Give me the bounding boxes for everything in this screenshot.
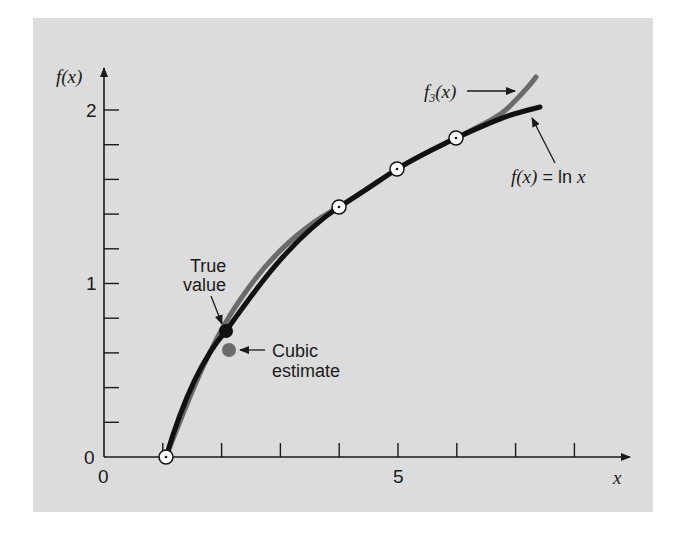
x-tick-label-5: 5 <box>393 466 404 487</box>
lnx-label: f(x) = ln x <box>511 166 586 188</box>
x-ticks <box>163 443 575 457</box>
lnx-arrow <box>532 118 555 163</box>
true-value-label-line1: True <box>190 256 226 276</box>
data-point-x6 <box>449 131 463 145</box>
y-axis-title: f(x) <box>56 66 82 88</box>
data-point-x4 <box>332 200 346 214</box>
y-tick-label-1: 1 <box>86 273 97 294</box>
x-axis-title: x <box>612 467 622 488</box>
y-tick-label-0: 0 <box>84 447 95 468</box>
chart-canvas: 2 1 0 0 5 f(x) x True value Cubic estima… <box>0 0 680 535</box>
true-value-point <box>219 324 233 338</box>
data-point-x1 <box>159 450 173 464</box>
cubic-estimate-point <box>222 343 236 357</box>
svg-text:f(x) = ln x: f(x) = ln x <box>511 166 586 188</box>
y-ticks <box>104 110 119 422</box>
x-tick-label-0: 0 <box>98 466 109 487</box>
data-point-x5 <box>390 162 404 176</box>
cubic-estimate-label-line1: Cubic <box>272 341 318 361</box>
true-value-arrow <box>211 296 222 324</box>
true-value-label-line2: value <box>183 275 226 295</box>
f3-label: f3(x) <box>424 81 456 105</box>
y-tick-label-2: 2 <box>86 100 97 121</box>
svg-text:f3(x): f3(x) <box>424 81 456 105</box>
cubic-estimate-label-line2: estimate <box>272 361 340 381</box>
